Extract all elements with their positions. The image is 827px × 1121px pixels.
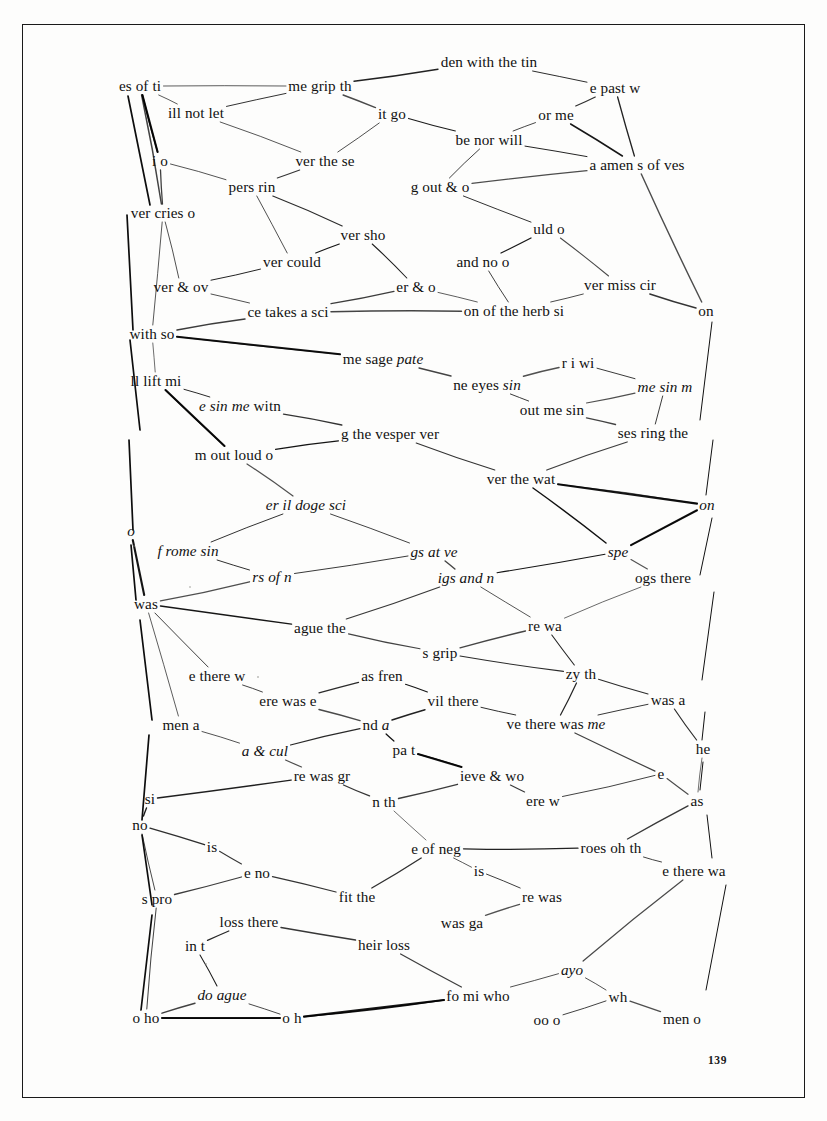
fragment-node: fit the bbox=[339, 889, 376, 904]
fragment-node: loss there bbox=[220, 914, 279, 929]
fragment-node: den with the tin bbox=[441, 54, 538, 69]
fragment-node: on bbox=[699, 497, 714, 512]
network-node-layer: es of tiden with the tinme grip the past… bbox=[0, 0, 827, 1121]
fragment-node: on bbox=[698, 303, 713, 318]
fragment-node: it go bbox=[378, 106, 406, 121]
scan-speckle bbox=[189, 586, 191, 588]
fragment-node: ayo bbox=[561, 962, 583, 977]
fragment-node: spe bbox=[608, 544, 629, 559]
fragment-node: me grip th bbox=[288, 78, 351, 93]
fragment-node: g out & o bbox=[411, 179, 470, 194]
fragment-node: no bbox=[132, 817, 147, 832]
fragment-node: men a bbox=[162, 717, 199, 732]
fragment-node: r i wi bbox=[562, 355, 595, 370]
fragment-node: ill not let bbox=[168, 105, 224, 120]
fragment-node: er il doge sci bbox=[266, 497, 346, 512]
fragment-node: e past w bbox=[590, 80, 641, 95]
fragment-node: rs of n bbox=[252, 569, 292, 584]
fragment-node: ver miss cir bbox=[584, 277, 656, 292]
fragment-node: wh bbox=[609, 989, 628, 1004]
fragment-node: as bbox=[691, 793, 704, 808]
fragment-node: vil there bbox=[427, 693, 478, 708]
fragment-node: si bbox=[145, 791, 155, 806]
fragment-node: men o bbox=[663, 1011, 701, 1026]
fragment-node: e sin me witn bbox=[199, 398, 281, 413]
scan-speckle bbox=[257, 676, 259, 678]
fragment-node: gs at ve bbox=[410, 544, 457, 559]
fragment-node: igs and n bbox=[438, 570, 495, 585]
fragment-node: was bbox=[134, 596, 158, 611]
page-number: 139 bbox=[708, 1054, 727, 1066]
fragment-node: e there wa bbox=[662, 863, 725, 878]
fragment-node: er & o bbox=[396, 279, 435, 294]
fragment-node: g the vesper ver bbox=[341, 426, 439, 441]
fragment-node: s pro bbox=[142, 891, 172, 906]
fragment-node: ne eyes sin bbox=[453, 377, 521, 392]
fragment-node: ver cries o bbox=[131, 205, 195, 220]
fragment-node: re was bbox=[522, 889, 562, 904]
fragment-node: as fren bbox=[361, 668, 403, 683]
fragment-italic-part: pate bbox=[397, 350, 424, 367]
fragment-node: ver & ov bbox=[154, 279, 209, 294]
fragment-node: o h bbox=[282, 1010, 301, 1025]
fragment-node: ague the bbox=[294, 620, 346, 635]
fragment-node: e bbox=[658, 766, 665, 781]
fragment-node: o ho bbox=[133, 1010, 160, 1025]
fragment-node: ses ring the bbox=[618, 425, 688, 440]
scanned-page: es of tiden with the tinme grip the past… bbox=[0, 0, 827, 1121]
fragment-node: and no o bbox=[456, 254, 509, 269]
fragment-node: e there w bbox=[189, 668, 246, 683]
fragment-node: me sage pate bbox=[343, 351, 424, 366]
fragment-node: ver sho bbox=[341, 227, 386, 242]
fragment-node: n th bbox=[372, 794, 396, 809]
fragment-node: ere was e bbox=[259, 693, 316, 708]
fragment-node: roes oh th bbox=[581, 840, 642, 855]
fragment-node: ver could bbox=[263, 254, 321, 269]
fragment-node: re wa bbox=[528, 618, 562, 633]
fragment-node: oo o bbox=[534, 1012, 561, 1027]
fragment-node: me sin m bbox=[638, 379, 693, 394]
scan-speckle bbox=[205, 963, 207, 965]
fragment-italic-part: a bbox=[382, 716, 390, 733]
fragment-node: is bbox=[474, 863, 484, 878]
fragment-node: e of neg bbox=[411, 841, 461, 856]
fragment-node: i o bbox=[152, 153, 168, 168]
fragment-node: ce takes a sci bbox=[247, 304, 328, 319]
fragment-node: es of ti bbox=[119, 78, 161, 93]
fragment-node: on of the herb si bbox=[464, 303, 564, 318]
fragment-node: fo mi who bbox=[446, 988, 509, 1003]
fragment-node: or me bbox=[538, 107, 574, 122]
fragment-node: do ague bbox=[197, 987, 246, 1002]
fragment-node: in t bbox=[185, 938, 205, 953]
fragment-node: he bbox=[696, 741, 711, 756]
fragment-node: zy th bbox=[566, 666, 596, 681]
fragment-node: e no bbox=[244, 865, 270, 880]
fragment-node: pa t bbox=[393, 742, 416, 757]
fragment-roman-part: witn bbox=[250, 397, 281, 414]
fragment-node: o bbox=[127, 523, 135, 538]
fragment-node: out me sin bbox=[520, 402, 584, 417]
fragment-node: m out loud o bbox=[195, 447, 273, 462]
fragment-node: uld o bbox=[533, 221, 564, 236]
fragment-node: nd a bbox=[363, 717, 390, 732]
fragment-node: was ga bbox=[441, 915, 483, 930]
fragment-node: pers rin bbox=[229, 179, 276, 194]
scan-speckle bbox=[133, 545, 135, 547]
fragment-node: heir loss bbox=[358, 937, 410, 952]
fragment-italic-part: me bbox=[588, 715, 606, 732]
fragment-node: with so bbox=[129, 326, 174, 341]
fragment-node: re was gr bbox=[294, 768, 351, 783]
fragment-italic-part: sin bbox=[503, 376, 521, 393]
fragment-node: ver the se bbox=[295, 153, 354, 168]
fragment-node: a & cul bbox=[242, 743, 288, 758]
fragment-node: ver the wat bbox=[487, 471, 556, 486]
fragment-node: was a bbox=[651, 692, 686, 707]
fragment-node: ere w bbox=[526, 793, 560, 808]
fragment-node: s grip bbox=[423, 645, 458, 660]
fragment-node: a amen s of ves bbox=[589, 157, 684, 172]
fragment-node: ieve & wo bbox=[460, 768, 524, 783]
fragment-node: f rome sin bbox=[157, 543, 218, 558]
fragment-node: is bbox=[207, 839, 217, 854]
fragment-node: be nor will bbox=[456, 132, 523, 147]
fragment-node: ve there was me bbox=[507, 716, 606, 731]
